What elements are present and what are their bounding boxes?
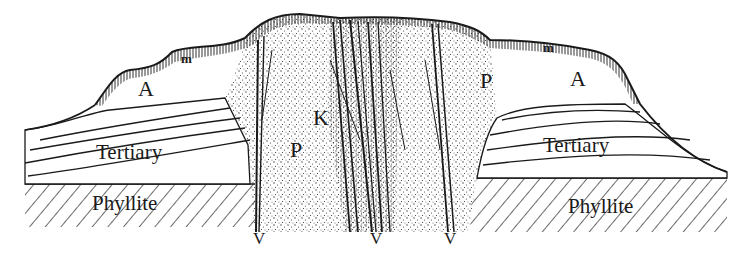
label-phyllite-right: Phyllite (568, 196, 633, 217)
label-moraine-left: m (181, 52, 192, 65)
label-vein-2: V (370, 230, 382, 247)
label-porphyry-right: P (480, 70, 492, 92)
label-phyllite-left: Phyllite (92, 193, 157, 214)
cross-section-drawing (0, 0, 747, 264)
label-alluvium-right: A (570, 68, 586, 90)
label-vein-1: V (253, 230, 265, 247)
label-kimberlite: K (313, 107, 329, 129)
label-vein-3: V (444, 230, 456, 247)
label-alluvium-left: A (138, 78, 154, 100)
label-porphyry-left: P (290, 139, 302, 161)
label-tertiary-left: Tertiary (96, 142, 162, 163)
label-moraine-right: m (543, 41, 554, 54)
label-tertiary-right: Tertiary (543, 135, 609, 156)
cross-section-diagram: m m A A K P P Tertiary Tertiary Phyllite… (0, 0, 747, 264)
